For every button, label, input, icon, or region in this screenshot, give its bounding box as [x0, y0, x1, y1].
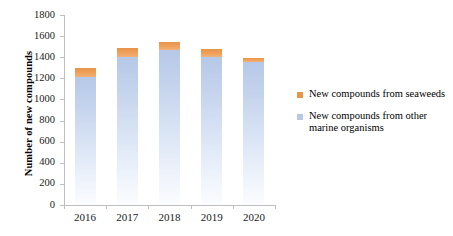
- legend-label-other-marine: New compounds from other marine organism…: [309, 110, 451, 135]
- legend: New compounds from seaweeds New compound…: [297, 88, 453, 144]
- y-tick-label: 1600: [15, 31, 55, 42]
- x-axis-line: [64, 205, 276, 206]
- x-tick-mark: [64, 205, 65, 209]
- legend-label-seaweeds: New compounds from seaweeds: [309, 88, 445, 101]
- y-tick-label: 1200: [15, 73, 55, 84]
- bar-segment-seaweeds[interactable]: [117, 48, 138, 57]
- bar-segment-other-marine[interactable]: [117, 57, 138, 205]
- bar-group[interactable]: [117, 15, 138, 205]
- y-tick-label: 400: [15, 157, 55, 168]
- y-tick-label: 1000: [15, 94, 55, 105]
- legend-item-other-marine[interactable]: New compounds from other marine organism…: [297, 110, 453, 135]
- bar-segment-seaweeds[interactable]: [201, 49, 222, 57]
- bar-segment-other-marine[interactable]: [243, 62, 264, 205]
- x-tick-mark: [191, 205, 192, 209]
- stacked-bar-chart: Number of new compounds 0200400600800100…: [0, 0, 453, 236]
- bar-segment-other-marine[interactable]: [159, 50, 180, 205]
- bar-group[interactable]: [243, 15, 264, 205]
- plot-area: [64, 15, 275, 205]
- y-tick-label: 800: [15, 115, 55, 126]
- y-tick-label: 0: [15, 200, 55, 211]
- y-tick-label: 1800: [15, 10, 55, 21]
- bar-segment-other-marine[interactable]: [201, 57, 222, 205]
- bar-segment-seaweeds[interactable]: [75, 68, 96, 77]
- bar-group[interactable]: [201, 15, 222, 205]
- y-tick-label: 600: [15, 136, 55, 147]
- bar-segment-seaweeds[interactable]: [159, 42, 180, 50]
- bar-segment-other-marine[interactable]: [75, 77, 96, 205]
- bar-group[interactable]: [75, 15, 96, 205]
- x-tick-mark: [233, 205, 234, 209]
- legend-item-seaweeds[interactable]: New compounds from seaweeds: [297, 88, 453, 101]
- y-tick-label: 200: [15, 178, 55, 189]
- legend-swatch-seaweeds-icon: [297, 92, 303, 98]
- x-tick-mark: [275, 205, 276, 209]
- x-tick-mark: [148, 205, 149, 209]
- y-tick-label: 1400: [15, 52, 55, 63]
- bar-segment-seaweeds[interactable]: [243, 58, 264, 62]
- legend-swatch-other-marine-icon: [297, 114, 303, 120]
- x-tick-mark: [106, 205, 107, 209]
- y-axis-title: Number of new compounds: [23, 24, 34, 204]
- x-tick-label: 2020: [228, 212, 280, 223]
- bar-group[interactable]: [159, 15, 180, 205]
